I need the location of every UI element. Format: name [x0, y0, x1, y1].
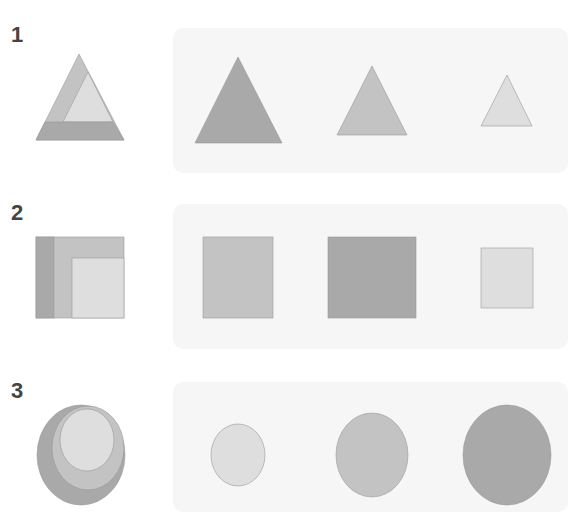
row-1-option-2-triangle[interactable]: [337, 66, 407, 135]
row-2-option-3-square[interactable]: [481, 248, 533, 308]
shapes-canvas: [0, 0, 576, 517]
row-3-composite-circle: [37, 405, 125, 505]
row-2-option-2-square[interactable]: [328, 237, 416, 318]
row-3-option-1-circle[interactable]: [211, 424, 265, 486]
row-1-option-1-triangle[interactable]: [195, 57, 282, 143]
row-1-composite-triangle: [36, 54, 124, 140]
row-2-option-1-square[interactable]: [203, 237, 273, 318]
row-3-option-2-circle[interactable]: [336, 413, 408, 497]
row-2-composite-square: [36, 237, 124, 318]
row-3-option-3-circle[interactable]: [463, 405, 551, 505]
row-1-option-3-triangle[interactable]: [481, 75, 532, 126]
